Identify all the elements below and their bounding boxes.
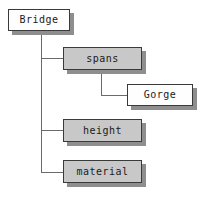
tree-diagram: Bridge spans Gorge height material <box>0 0 205 199</box>
node-height[interactable]: height <box>63 119 142 142</box>
node-gorge[interactable]: Gorge <box>127 84 193 106</box>
branch-line-material <box>41 172 64 173</box>
node-gorge-label: Gorge <box>144 90 177 100</box>
node-spans[interactable]: spans <box>63 47 142 70</box>
node-bridge-label: Bridge <box>19 15 58 25</box>
branch-line-spans <box>41 58 64 59</box>
branch-line-height <box>41 130 64 131</box>
node-material-label: material <box>76 167 128 177</box>
trunk-line-bridge <box>41 31 42 172</box>
node-bridge[interactable]: Bridge <box>8 9 70 31</box>
node-spans-label: spans <box>86 54 119 64</box>
node-height-label: height <box>83 126 122 136</box>
node-material[interactable]: material <box>63 160 142 183</box>
elbow-line-gorge-horizontal <box>101 95 128 96</box>
